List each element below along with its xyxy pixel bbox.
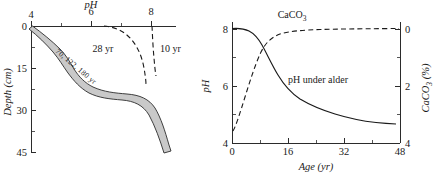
right-y2tick-label-0: 0 <box>405 24 410 35</box>
left-ytick-label-0: 0 <box>22 21 27 32</box>
y2-title-unit: (%) <box>420 63 432 82</box>
caption-strip <box>0 168 442 177</box>
caco3-label-sub: 3 <box>303 14 307 23</box>
left-xtick-label-4: 4 <box>28 9 34 20</box>
left-xtick-label-8: 8 <box>148 6 153 17</box>
left-chart-panel: 4 6 8 pH 0 15 30 45 Depth (cm) 70, 122, … <box>0 0 196 177</box>
right-xtick-label-16: 16 <box>283 146 294 157</box>
annotation-10yr: 10 yr <box>160 43 182 54</box>
left-ytick-label-45: 45 <box>17 147 28 158</box>
label-ph-under-alder: pH under alder <box>288 74 349 85</box>
y2-title-main: CaCO <box>420 85 431 112</box>
svg-text:CaCO3 (%): CaCO3 (%) <box>420 63 434 112</box>
annotation-28yr: 28 yr <box>93 43 115 54</box>
figure-container: 4 6 8 pH 0 15 30 45 Depth (cm) 70, 122, … <box>0 0 442 177</box>
left-y-ticks <box>31 26 36 152</box>
left-x-axis-title: pH <box>84 0 99 10</box>
curve-28yr <box>104 26 146 85</box>
right-ytick-label-4: 4 <box>223 138 229 149</box>
right-y2tick-label-2: 2 <box>405 81 410 92</box>
left-ytick-label-15: 15 <box>17 63 28 74</box>
right-chart-panel: 8 6 4 pH 0 16 32 48 Age (yr) 0 2 <box>196 0 442 177</box>
right-y-axis-title: pH <box>200 78 211 93</box>
right-y2-ticks <box>395 29 400 143</box>
caco3-label-main: CaCO <box>278 9 303 20</box>
right-xtick-label-0: 0 <box>229 146 234 157</box>
right-xtick-label-48: 48 <box>395 146 406 157</box>
right-xtick-label-32: 32 <box>339 146 350 157</box>
right-x-ticks <box>232 138 400 143</box>
right-left-y-ticks <box>232 29 237 143</box>
right-ytick-label-8: 8 <box>223 24 228 35</box>
right-y2tick-label-4: 4 <box>405 138 411 149</box>
right-y2-axis-title: CaCO3 (%) <box>420 63 434 112</box>
left-ytick-label-30: 30 <box>17 105 28 116</box>
left-x-ticks <box>31 21 151 26</box>
left-y-axis-title: Depth (cm) <box>2 68 14 117</box>
right-ytick-label-6: 6 <box>223 81 228 92</box>
label-caco3: CaCO3 <box>278 9 307 23</box>
curve-10yr <box>152 26 156 76</box>
